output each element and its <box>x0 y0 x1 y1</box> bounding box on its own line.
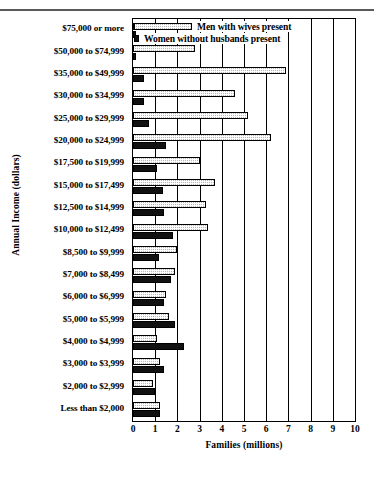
x-axis-title: Families (millions) <box>132 440 356 450</box>
bar-men-with-wives-present <box>133 402 160 409</box>
chart-legend: Men with wives present Women without hus… <box>134 21 292 45</box>
women-swatch-icon <box>134 35 139 42</box>
legend-label-men: Men with wives present <box>196 21 292 32</box>
bar-row <box>133 399 355 421</box>
bar-row <box>133 198 355 220</box>
bar-women-without-husbands-present <box>133 120 149 127</box>
bar-women-without-husbands-present <box>133 321 175 328</box>
y-axis-tick-label: $4,000 to $4,999 <box>0 336 124 346</box>
bar-row <box>133 131 355 153</box>
bar-men-with-wives-present <box>133 179 215 186</box>
bar-row <box>133 64 355 86</box>
legend-item-women: Women without husbands present <box>134 33 292 44</box>
bar-men-with-wives-present <box>133 268 175 275</box>
bar-men-with-wives-present <box>133 67 286 74</box>
x-axis-tick-labels: 012345678910 <box>132 424 356 438</box>
bar-row <box>133 175 355 197</box>
x-axis-tick-label: 0 <box>131 424 136 434</box>
x-axis-tick-label: 2 <box>175 424 180 434</box>
bar-row <box>133 220 355 242</box>
bar-men-with-wives-present <box>133 380 153 387</box>
y-axis-tick-label: $8,500 to $9,999 <box>0 247 124 257</box>
x-axis-tick-label: 5 <box>242 424 247 434</box>
y-axis-tick-label: Less than $2,000 <box>0 403 124 413</box>
bar-row <box>133 265 355 287</box>
x-axis-tick-label: 7 <box>286 424 291 434</box>
bar-women-without-husbands-present <box>133 232 173 239</box>
bar-men-with-wives-present <box>133 112 248 119</box>
y-axis-tick-label: $35,000 to $49,999 <box>0 68 124 78</box>
y-axis-tick-label: $10,000 to $12,499 <box>0 224 124 234</box>
bar-men-with-wives-present <box>133 134 271 141</box>
x-axis-tick-label: 4 <box>219 424 224 434</box>
bar-row <box>133 287 355 309</box>
bar-women-without-husbands-present <box>133 388 155 395</box>
y-axis-tick-label: $30,000 to $34,999 <box>0 90 124 100</box>
men-swatch-icon <box>134 23 192 30</box>
y-axis-tick-label: $75,000 or more <box>0 23 124 33</box>
y-axis-tick-label: $3,000 to $3,999 <box>0 358 124 368</box>
y-axis-tick-label: $2,000 to $2,999 <box>0 381 124 391</box>
y-axis-tick-labels: $75,000 or more$50,000 to $74,999$35,000… <box>0 18 128 422</box>
x-axis-tick-label: 9 <box>330 424 335 434</box>
bar-row <box>133 153 355 175</box>
y-axis-tick-label: $20,000 to $24,999 <box>0 135 124 145</box>
bar-row <box>133 108 355 130</box>
bar-women-without-husbands-present <box>133 299 164 306</box>
bar-women-without-husbands-present <box>133 75 144 82</box>
legend-item-men: Men with wives present <box>134 21 292 32</box>
bar-women-without-husbands-present <box>133 53 136 60</box>
bar-men-with-wives-present <box>133 201 206 208</box>
legend-label-women: Women without husbands present <box>143 33 281 44</box>
y-axis-tick-label: $12,500 to $14,999 <box>0 202 124 212</box>
income-distribution-bar-chart: Annual Income (dollars) $75,000 or more$… <box>0 0 374 487</box>
y-axis-tick-label: $50,000 to $74,999 <box>0 46 124 56</box>
bar-men-with-wives-present <box>133 90 235 97</box>
y-axis-tick-label: $15,000 to $17,499 <box>0 180 124 190</box>
y-axis-tick-label: $7,000 to $8,499 <box>0 269 124 279</box>
x-axis-tick-label: 8 <box>308 424 313 434</box>
bar-women-without-husbands-present <box>133 209 164 216</box>
bar-row <box>133 332 355 354</box>
bar-men-with-wives-present <box>133 246 177 253</box>
bar-row <box>133 376 355 398</box>
bar-women-without-husbands-present <box>133 142 166 149</box>
bar-men-with-wives-present <box>133 313 169 320</box>
x-axis-tick-label: 6 <box>264 424 269 434</box>
bar-men-with-wives-present <box>133 45 195 52</box>
x-axis-tick-label: 3 <box>197 424 202 434</box>
bar-women-without-husbands-present <box>133 343 184 350</box>
y-axis-tick-label: $5,000 to $5,999 <box>0 314 124 324</box>
bar-row <box>133 309 355 331</box>
bar-men-with-wives-present <box>133 358 160 365</box>
bar-women-without-husbands-present <box>133 410 160 417</box>
bar-women-without-husbands-present <box>133 187 163 194</box>
bar-women-without-husbands-present <box>133 165 157 172</box>
top-divider-rule <box>0 9 374 11</box>
bar-women-without-husbands-present <box>133 366 164 373</box>
bar-women-without-husbands-present <box>133 276 171 283</box>
bar-row <box>133 354 355 376</box>
y-axis-tick-label: $17,500 to $19,999 <box>0 157 124 167</box>
x-axis-tick-label: 10 <box>350 424 360 434</box>
bar-men-with-wives-present <box>133 157 200 164</box>
bar-men-with-wives-present <box>133 291 166 298</box>
y-axis-tick-label: $6,000 to $6,999 <box>0 291 124 301</box>
bar-row <box>133 86 355 108</box>
bar-men-with-wives-present <box>133 224 208 231</box>
bar-men-with-wives-present <box>133 335 157 342</box>
bar-row <box>133 242 355 264</box>
x-axis-tick-label: 1 <box>153 424 158 434</box>
bar-women-without-husbands-present <box>133 254 159 261</box>
y-axis-tick-label: $25,000 to $29,999 <box>0 113 124 123</box>
plot-area: Men with wives present Women without hus… <box>132 18 356 422</box>
bar-women-without-husbands-present <box>133 98 144 105</box>
